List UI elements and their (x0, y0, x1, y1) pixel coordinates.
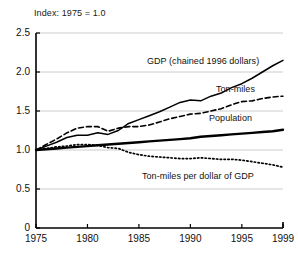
y-axis-tick-label: 2.5 (4, 27, 30, 38)
x-axis-tick-label: 1985 (119, 233, 159, 244)
chart-plot-svg (0, 0, 298, 257)
y-axis-tick-label: 0 (4, 222, 30, 233)
x-axis-tick-label: 1999 (263, 233, 298, 244)
series-label-ton-miles-per-dollar: Ton-miles per dollar of GDP (142, 171, 254, 181)
x-axis-tick-label: 1990 (170, 233, 210, 244)
y-axis-tick-label: 1.5 (4, 105, 30, 116)
chart-container: Index: 1975 = 1.0 00.51.01.52.02.5 19751… (0, 0, 298, 257)
series-line (36, 60, 283, 150)
x-axis-tick-label: 1975 (16, 233, 56, 244)
series-label-gdp: GDP (chained 1996 dollars) (147, 56, 259, 66)
series-label-population: Population (209, 113, 252, 123)
x-axis-tick-label: 1995 (222, 233, 262, 244)
series-line (36, 96, 283, 150)
series-line (36, 130, 283, 150)
series-label-ton-miles: Ton-miles (216, 84, 255, 94)
y-axis-tick-label: 0.5 (4, 183, 30, 194)
y-axis-tick-label: 1.0 (4, 144, 30, 155)
x-axis-tick-label: 1980 (67, 233, 107, 244)
y-axis-tick-label: 2.0 (4, 66, 30, 77)
